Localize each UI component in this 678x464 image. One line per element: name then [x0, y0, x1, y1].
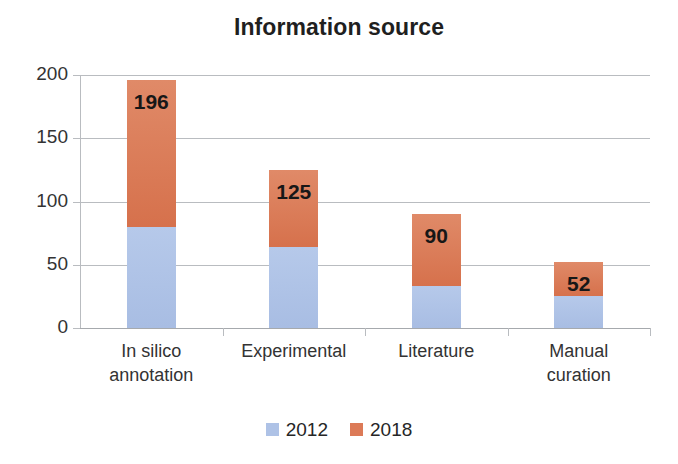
- category-label-line: In silico: [80, 340, 223, 364]
- category-label-line: Experimental: [223, 340, 366, 364]
- chart-legend: 2012 2018: [0, 420, 678, 439]
- y-axis-tick-label: 100: [8, 191, 68, 210]
- plot-area: 1961259052: [80, 75, 650, 328]
- bar-total-label: 196: [127, 91, 176, 112]
- category-label-line: annotation: [80, 364, 223, 388]
- bar-segment-2012[interactable]: [554, 296, 603, 328]
- x-axis-separator: [508, 328, 509, 336]
- x-axis-category-label: Manualcuration: [508, 340, 651, 388]
- category-label-line: curation: [508, 364, 651, 388]
- legend-swatch-2012-icon: [266, 423, 279, 436]
- category-label-line: Manual: [508, 340, 651, 364]
- bar-total-label: 90: [412, 225, 461, 246]
- x-axis-separator: [365, 328, 366, 336]
- x-axis-category-label: Experimental: [223, 340, 366, 364]
- legend-swatch-2018-icon: [350, 423, 363, 436]
- bar-total-label: 125: [269, 181, 318, 202]
- y-axis-tick-label: 150: [8, 127, 68, 146]
- y-axis-tick-label: 0: [8, 317, 68, 336]
- bar-column[interactable]: 90: [412, 214, 461, 328]
- x-axis-separator: [223, 328, 224, 336]
- bar-segment-2012[interactable]: [269, 247, 318, 328]
- category-label-line: Literature: [365, 340, 508, 364]
- legend-label-2012: 2012: [286, 420, 328, 439]
- y-axis-tick-label: 200: [8, 64, 68, 83]
- chart-title: Information source: [0, 14, 678, 41]
- gridline: [80, 75, 650, 76]
- bar-total-label: 52: [554, 273, 603, 294]
- chart-container: Information source 050100150200 19612590…: [0, 0, 678, 464]
- x-axis-separator: [650, 328, 651, 336]
- legend-item-2018[interactable]: 2018: [350, 420, 412, 439]
- bar-column[interactable]: 125: [269, 170, 318, 328]
- x-axis-category-label: Literature: [365, 340, 508, 364]
- bar-segment-2012[interactable]: [412, 286, 461, 328]
- bar-column[interactable]: 52: [554, 262, 603, 328]
- legend-label-2018: 2018: [370, 420, 412, 439]
- bar-segment-2012[interactable]: [127, 227, 176, 328]
- y-axis-tick-label: 50: [8, 254, 68, 273]
- x-axis-category-label: In silicoannotation: [80, 340, 223, 388]
- bar-column[interactable]: 196: [127, 80, 176, 328]
- legend-item-2012[interactable]: 2012: [266, 420, 328, 439]
